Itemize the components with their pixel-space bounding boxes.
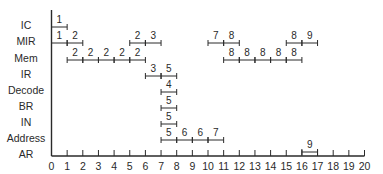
segment-label: 2 [84, 47, 98, 58]
segment-label: 8 [224, 47, 238, 58]
x-tick-label: 2 [75, 160, 91, 172]
x-tick-label: 11 [216, 160, 232, 172]
segment-label: 5 [162, 63, 176, 74]
x-tick-label: 14 [263, 160, 279, 172]
x-tick-label: 15 [278, 160, 294, 172]
segment-label: 6 [193, 127, 207, 138]
segment-label: 9 [303, 30, 317, 41]
row-label-ar: AR [4, 148, 48, 160]
row-label-address: Address [4, 132, 48, 144]
segment-label: 6 [178, 127, 192, 138]
segment-label: 7 [209, 127, 223, 138]
segment-label: 8 [287, 30, 301, 41]
segment-label: 5 [162, 111, 176, 122]
segment-label: 2 [131, 47, 145, 58]
x-tick-label: 8 [169, 160, 185, 172]
x-tick-label: 17 [310, 160, 326, 172]
segment-label: 8 [256, 47, 270, 58]
segment-label: 3 [146, 30, 160, 41]
segment-label: 8 [287, 47, 301, 58]
x-tick-label: 18 [325, 160, 341, 172]
x-tick-label: 4 [106, 160, 122, 172]
x-tick-label: 20 [357, 160, 373, 172]
plot-area [0, 0, 383, 174]
x-tick-label: 10 [200, 160, 216, 172]
row-label-br: BR [4, 100, 48, 112]
x-tick-label: 13 [247, 160, 263, 172]
x-tick-label: 1 [59, 160, 75, 172]
row-label-ic: IC [4, 19, 48, 31]
x-tick-label: 5 [122, 160, 138, 172]
segment-label: 9 [303, 139, 317, 150]
x-tick-label: 0 [44, 160, 60, 172]
segment-label: 7 [209, 30, 223, 41]
x-tick-label: 16 [294, 160, 310, 172]
row-label-decode: Decode [4, 84, 48, 96]
x-tick-label: 12 [231, 160, 247, 172]
segment-label: 2 [115, 47, 129, 58]
x-tick-label: 7 [153, 160, 169, 172]
segment-label: 2 [68, 30, 82, 41]
segment-label: 8 [224, 30, 238, 41]
segment-label: 5 [162, 95, 176, 106]
x-tick-label: 9 [184, 160, 200, 172]
segment-label: 5 [162, 127, 176, 138]
x-tick-label: 19 [341, 160, 357, 172]
timing-diagram: 01234567891011121314151617181920IC1MIR12… [0, 0, 383, 174]
x-tick-label: 3 [90, 160, 106, 172]
x-tick-label: 6 [137, 160, 153, 172]
segment-label: 2 [99, 47, 113, 58]
segment-label: 4 [162, 79, 176, 90]
row-label-ir: IR [4, 68, 48, 80]
segment-label: 2 [131, 30, 145, 41]
segment-label: 1 [52, 30, 66, 41]
segment-label: 8 [240, 47, 254, 58]
row-label-mir: MIR [4, 35, 48, 47]
row-label-in: IN [4, 116, 48, 128]
row-label-mem: Mem [4, 52, 48, 64]
segment-label: 8 [271, 47, 285, 58]
segment-label: 3 [146, 63, 160, 74]
segment-label: 1 [52, 14, 66, 25]
segment-label: 2 [68, 47, 82, 58]
